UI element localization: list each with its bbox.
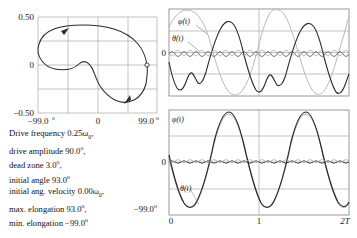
angle-theta-label: θ(t)	[180, 184, 192, 193]
param-initial-angle-degree: o	[67, 174, 70, 180]
param-min-elongation-text: min. elongation −99.0	[9, 218, 85, 228]
param-line-drive-amplitude: drive amplitude 90.0o,	[9, 143, 174, 157]
phase-xtick-right-value: 99.0	[138, 116, 154, 126]
phase-xtick-left-value: −99.0	[28, 116, 49, 126]
param-initial-velocity-tail: ,	[102, 186, 104, 196]
angle-phi-label: φ(t)	[172, 115, 184, 124]
angle-ytick-bottom-value: −99.0	[134, 204, 154, 214]
velocity-thetadot-leader	[188, 42, 199, 51]
angle-ytick-bottom-degree: o	[154, 203, 157, 209]
phase-xtick-right: 99.0 o	[138, 115, 159, 126]
angle-xtick-mid: 1	[257, 216, 262, 226]
param-drive-amplitude-text: drive amplitude 90.0	[9, 146, 80, 156]
angle-ytick-bottom: −99.0o	[134, 203, 157, 214]
param-max-elongation-text: max. elongation 93.0	[9, 204, 82, 214]
phase-xtick-right-degree: o	[156, 115, 159, 121]
param-min-elongation-degree: o	[85, 217, 88, 223]
param-drive-amplitude-tail: ,	[83, 146, 85, 156]
param-drive-frequency-tail: ,	[91, 128, 93, 138]
angle-panel: φ(t) θ(t) 0 0 1 2T	[162, 110, 351, 226]
phase-xtick-left: −99.0 o	[28, 115, 55, 126]
velocity-phidot-label: φ̇(t)	[178, 17, 190, 26]
phase-ytick-top: 0.50	[18, 12, 34, 22]
phase-ytick-mid: 0	[30, 60, 35, 70]
phase-xtick-left-degree: o	[52, 115, 55, 121]
velocity-ytick-zero: 0	[162, 48, 167, 58]
phase-start-marker	[145, 63, 149, 67]
angle-xtick-right: 2T	[340, 216, 351, 226]
param-initial-velocity-text: initial ang. velocity 0.00	[9, 186, 93, 196]
param-line-drive-frequency: Drive frequency 0.25ω0,	[9, 128, 174, 143]
param-initial-angle-text: initial angle 93.0	[9, 175, 67, 185]
phase-grid	[38, 17, 157, 113]
param-dead-zone-text: dead zone 3.0	[9, 160, 56, 170]
phase-xtick-mid: 0	[96, 116, 101, 126]
velocity-phidot-leader	[196, 25, 207, 34]
velocity-thetadot-label: θ̇(t)	[172, 34, 184, 43]
param-line-dead-zone: dead zone 3.0o,	[9, 157, 174, 171]
parameter-text-block: Drive frequency 0.25ω0, drive amplitude …	[9, 128, 174, 230]
param-line-min-elongation: min. elongation −99.0o	[9, 215, 174, 229]
phase-portrait-panel: 0.50 0 −0.50 −99.0 o 0 99.0 o	[13, 12, 159, 126]
param-line-initial-velocity: initial ang. velocity 0.00ω0,	[9, 186, 174, 201]
param-max-elongation-tail: ,	[84, 204, 86, 214]
phase-trajectory	[38, 25, 147, 102]
param-line-initial-angle: initial angle 93.0o	[9, 172, 174, 186]
param-drive-frequency-text: Drive frequency 0.25	[9, 128, 82, 138]
param-dead-zone-tail: ,	[59, 160, 61, 170]
velocity-panel: φ̇(t) θ̇(t) 0	[162, 9, 350, 96]
figure-container: 0.50 0 −0.50 −99.0 o 0 99.0 o	[0, 0, 357, 238]
